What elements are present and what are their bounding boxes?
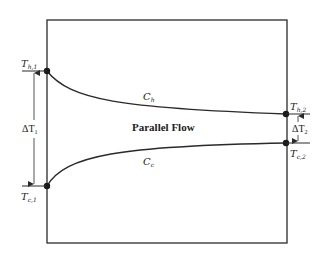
cold-fluid-curve xyxy=(47,143,286,186)
th2-label: Th,2 xyxy=(290,101,306,113)
dt2-label: ΔT2 xyxy=(292,123,308,135)
tc2-label: Tc,2 xyxy=(290,148,306,160)
hot-fluid-curve xyxy=(47,71,286,114)
dt1-label: ΔT1 xyxy=(22,123,38,135)
cold-curve-label: Cc xyxy=(143,156,155,168)
th1-label: Th,1 xyxy=(21,58,37,70)
parallel-flow-diagram: Th,1 Tc,1 Th,2 Tc,2 ΔT1 ΔT2 Ch Cc Parall… xyxy=(0,0,326,255)
tc1-label: Tc,1 xyxy=(21,191,37,203)
hot-curve-label: Ch xyxy=(143,91,155,103)
diagram-title: Parallel Flow xyxy=(132,121,195,133)
